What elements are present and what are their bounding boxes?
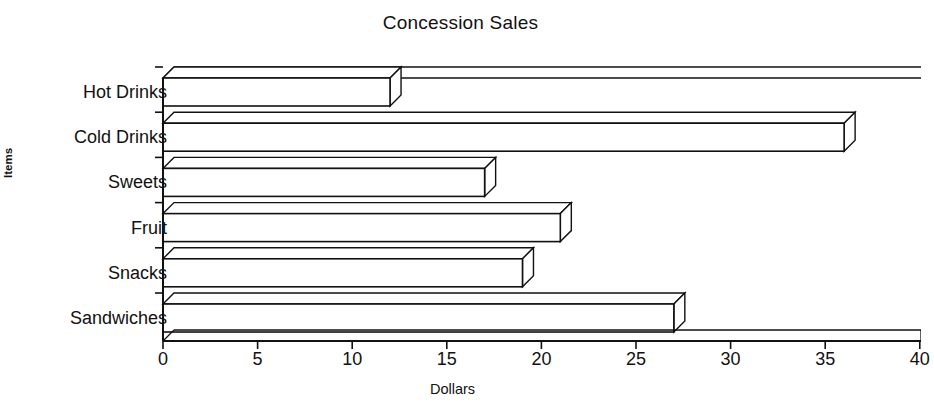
category-label-snacks: Snacks [108,264,167,282]
category-label-fruit: Fruit [131,219,167,237]
bar [163,293,685,332]
x-tick-label-30: 30 [709,350,753,368]
bar [163,203,571,242]
category-label-sweets: Sweets [108,173,167,191]
x-tick-label-35: 35 [803,350,847,368]
bar [163,67,401,106]
x-tick-label-5: 5 [236,350,280,368]
category-label-hot-drinks: Hot Drinks [83,83,167,101]
x-tick-label-10: 10 [330,350,374,368]
x-tick-label-40: 40 [898,350,934,368]
x-tick-label-20: 20 [519,350,563,368]
bar [163,248,533,287]
x-tick-label-0: 0 [141,350,185,368]
x-tick-label-25: 25 [614,350,658,368]
category-label-sandwiches: Sandwiches [70,309,167,327]
category-label-cold-drinks: Cold Drinks [74,128,167,146]
bar [163,112,855,151]
bar [163,157,496,196]
x-tick-label-15: 15 [425,350,469,368]
